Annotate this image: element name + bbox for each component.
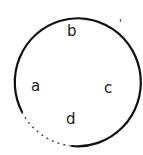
circle-dashed-segment bbox=[22, 112, 72, 146]
label-c: c bbox=[104, 79, 112, 97]
label-d: d bbox=[66, 110, 76, 128]
circle-diagram: ' b a c d bbox=[0, 0, 143, 155]
label-a: a bbox=[31, 77, 40, 95]
label-b: b bbox=[67, 22, 77, 40]
tick-mark: ' bbox=[119, 18, 122, 29]
